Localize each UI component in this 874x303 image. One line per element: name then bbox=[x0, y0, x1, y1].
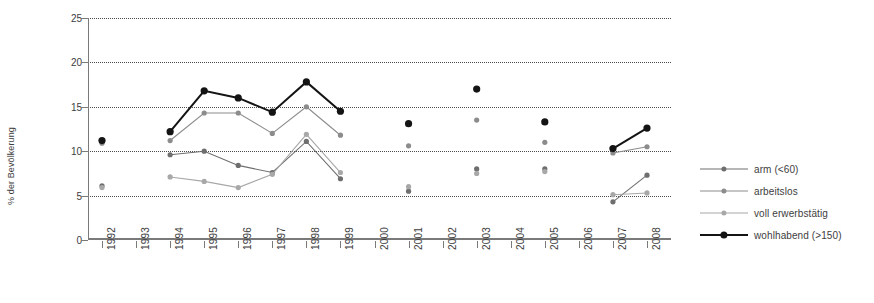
data-point bbox=[337, 108, 344, 115]
x-tick-label-1996: 1996 bbox=[242, 227, 253, 250]
series-line bbox=[613, 193, 647, 195]
legend-label: voll erwerbstätig bbox=[748, 208, 828, 219]
x-tick-mark-1995 bbox=[204, 241, 205, 248]
data-point bbox=[644, 144, 649, 149]
y-tick-mark-15 bbox=[81, 107, 88, 108]
x-tick-label-2004: 2004 bbox=[515, 227, 526, 250]
series-line bbox=[613, 175, 647, 202]
x-tick-mark-1997 bbox=[272, 241, 273, 248]
series-arbeitslos bbox=[99, 104, 649, 155]
data-point bbox=[168, 138, 173, 143]
data-point bbox=[542, 169, 547, 174]
x-tick-mark-2005 bbox=[545, 241, 546, 248]
data-point bbox=[406, 189, 411, 194]
y-tick-label-15: 15 bbox=[56, 101, 82, 112]
plot-area bbox=[88, 18, 671, 240]
data-point bbox=[202, 110, 207, 115]
x-tick-label-2005: 2005 bbox=[549, 227, 560, 250]
x-tick-mark-1996 bbox=[238, 241, 239, 248]
data-point bbox=[167, 128, 174, 135]
data-point bbox=[168, 174, 173, 179]
x-tick-label-2003: 2003 bbox=[481, 227, 492, 250]
x-tick-mark-2001 bbox=[409, 241, 410, 248]
data-point bbox=[303, 78, 310, 85]
data-point bbox=[406, 143, 411, 148]
data-point bbox=[338, 133, 343, 138]
legend-label: arm (<60) bbox=[748, 164, 799, 175]
data-point bbox=[610, 199, 615, 204]
x-tick-mark-2007 bbox=[613, 241, 614, 248]
x-tick-mark-1998 bbox=[306, 241, 307, 248]
legend-label: arbeitslos bbox=[748, 186, 798, 197]
data-point bbox=[236, 163, 241, 168]
data-point bbox=[541, 118, 548, 125]
y-tick-label-5: 5 bbox=[56, 190, 82, 201]
legend-marker bbox=[720, 231, 727, 238]
data-point bbox=[542, 140, 547, 145]
x-tick-label-2006: 2006 bbox=[583, 227, 594, 250]
x-tick-mark-2002 bbox=[443, 241, 444, 248]
y-axis-title: % der Bevölkerung bbox=[6, 96, 16, 236]
data-point bbox=[406, 184, 411, 189]
data-point bbox=[474, 171, 479, 176]
legend-swatch bbox=[700, 185, 748, 197]
series-line bbox=[170, 82, 340, 132]
chart-figure: % der Bevölkerung 0510152025 19921993199… bbox=[0, 0, 874, 303]
y-tick-mark-25 bbox=[81, 18, 88, 19]
legend-swatch bbox=[700, 229, 748, 241]
data-point bbox=[270, 131, 275, 136]
legend-item[interactable]: voll erwerbstätig bbox=[700, 202, 872, 224]
legend-marker bbox=[721, 166, 726, 171]
chart-legend: arm (<60)arbeitslosvoll erwerbstätigwohl… bbox=[700, 158, 872, 246]
x-tick-mark-2000 bbox=[375, 241, 376, 248]
series-line bbox=[170, 134, 340, 187]
legend-item[interactable]: wohlhabend (>150) bbox=[700, 224, 872, 246]
x-tick-mark-1992 bbox=[102, 241, 103, 248]
legend-marker bbox=[721, 210, 726, 215]
data-point bbox=[338, 176, 343, 181]
data-point bbox=[236, 185, 241, 190]
x-tick-label-1995: 1995 bbox=[208, 227, 219, 250]
data-point bbox=[202, 149, 207, 154]
x-tick-label-1998: 1998 bbox=[310, 227, 321, 250]
legend-item[interactable]: arm (<60) bbox=[700, 158, 872, 180]
y-tick-mark-5 bbox=[81, 196, 88, 197]
data-point bbox=[474, 166, 479, 171]
y-tick-label-20: 20 bbox=[56, 57, 82, 68]
data-point bbox=[644, 190, 649, 195]
x-tick-mark-1994 bbox=[170, 241, 171, 248]
y-tick-label-0: 0 bbox=[56, 235, 82, 246]
x-tick-mark-2004 bbox=[511, 241, 512, 248]
data-point bbox=[474, 118, 479, 123]
data-point bbox=[473, 85, 480, 92]
data-point bbox=[609, 145, 616, 152]
data-point bbox=[236, 110, 241, 115]
data-point bbox=[304, 139, 309, 144]
series-wohlhabend-150 bbox=[98, 78, 650, 152]
x-tick-label-2000: 2000 bbox=[379, 227, 390, 250]
x-tick-mark-1993 bbox=[136, 241, 137, 248]
data-point bbox=[610, 192, 615, 197]
legend-marker bbox=[721, 188, 726, 193]
x-tick-mark-2008 bbox=[647, 241, 648, 248]
data-point bbox=[99, 185, 104, 190]
y-tick-mark-20 bbox=[81, 62, 88, 63]
legend-item[interactable]: arbeitslos bbox=[700, 180, 872, 202]
x-tick-label-1997: 1997 bbox=[276, 227, 287, 250]
x-tick-label-1994: 1994 bbox=[174, 227, 185, 250]
x-tick-label-2001: 2001 bbox=[413, 227, 424, 250]
x-tick-label-1993: 1993 bbox=[140, 227, 151, 250]
x-tick-label-1992: 1992 bbox=[106, 227, 117, 250]
data-point bbox=[304, 104, 309, 109]
legend-swatch bbox=[700, 163, 748, 175]
x-tick-mark-2003 bbox=[477, 241, 478, 248]
x-tick-label-2008: 2008 bbox=[651, 227, 662, 250]
data-point bbox=[270, 172, 275, 177]
x-tick-label-1999: 1999 bbox=[344, 227, 355, 250]
x-tick-mark-2006 bbox=[579, 241, 580, 248]
data-point bbox=[201, 87, 208, 94]
series-line bbox=[170, 107, 340, 141]
legend-swatch bbox=[700, 207, 748, 219]
data-point bbox=[304, 132, 309, 137]
y-tick-label-10: 10 bbox=[56, 146, 82, 157]
